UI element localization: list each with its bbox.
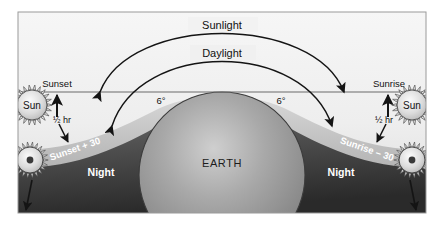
- sun-center-dot-left: [27, 157, 34, 164]
- sun-ray: [12, 104, 17, 107]
- sun-ray: [13, 108, 18, 111]
- sun-center-dot-right: [409, 157, 416, 164]
- angle-label-right: 6°: [276, 95, 285, 106]
- sun-ray: [425, 163, 430, 165]
- half-hour-label-right: ½ hr: [375, 115, 393, 125]
- sun-ray: [13, 163, 18, 165]
- sunset-label: Sunset: [42, 78, 72, 89]
- sun-label-left-horizon: Sun: [23, 100, 41, 111]
- sun-ray: [13, 155, 18, 157]
- daylight-label: Daylight: [202, 47, 242, 59]
- sun-ray: [426, 99, 431, 102]
- night-label-left: Night: [88, 166, 115, 178]
- sun-ray: [427, 104, 432, 107]
- twilight-diagram: Sunlight Daylight 6° 6° EARTH Night Nigh…: [0, 0, 444, 226]
- night-label-right: Night: [328, 166, 355, 178]
- sun-label-right-horizon: Sun: [403, 100, 421, 111]
- earth-label: EARTH: [202, 157, 242, 169]
- half-hour-label-left: ½ hr: [53, 115, 71, 125]
- sunrise-label: Sunrise: [373, 78, 405, 89]
- sun-ray: [13, 99, 18, 102]
- diagram-canvas: Sunlight Daylight 6° 6° EARTH Night Nigh…: [0, 0, 444, 226]
- angle-label-left: 6°: [156, 95, 165, 106]
- sun-ray: [426, 108, 431, 111]
- sun-ray: [12, 159, 17, 161]
- diagram-scene: Sunlight Daylight 6° 6° EARTH Night Nigh…: [12, 12, 432, 226]
- sunlight-label: Sunlight: [202, 19, 242, 31]
- sun-ray: [425, 155, 430, 157]
